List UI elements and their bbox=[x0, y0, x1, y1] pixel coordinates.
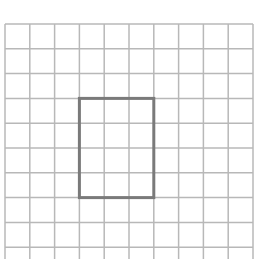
grid-diagram bbox=[0, 0, 256, 259]
grid-lines bbox=[5, 24, 253, 259]
